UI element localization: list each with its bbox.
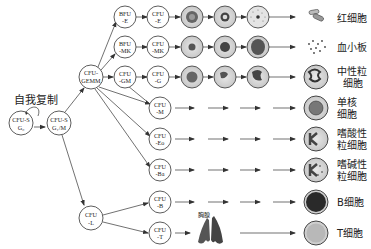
bfu-mk-node: BFU -MK <box>114 36 136 58</box>
label-monocyte-2: 细胞 <box>337 108 357 120</box>
hematopoiesis-diagram: 自我复制 CFU-S G₀ CFU-S G₁/M CFU- GEMM CFU -… <box>0 0 371 249</box>
cfu-eo-node: CFU -Eo <box>149 128 171 150</box>
svg-text:CFU: CFU <box>152 70 165 77</box>
cfu-gm-node: CFU -GM <box>114 66 136 88</box>
svg-text:-GM: -GM <box>119 77 132 84</box>
eosinophil-icon <box>304 127 328 151</box>
cfu-e-node: CFU -E <box>147 6 169 28</box>
neutrophil-icon <box>304 65 328 89</box>
label-basophil-2: 粒细胞 <box>337 170 367 182</box>
label-basophil-1: 嗜碱性 <box>337 158 367 170</box>
label-t-cell: T细胞 <box>336 227 363 239</box>
self-renewal-label: 自我复制 <box>14 93 58 107</box>
svg-text:-MK: -MK <box>152 47 165 54</box>
svg-text:-MK: -MK <box>119 47 132 54</box>
cfu-t-node: CFU -T <box>149 222 171 244</box>
cfu-m-node: CFU -M <box>149 97 171 119</box>
svg-text:CFU: CFU <box>154 226 167 233</box>
label-b-cell: B细胞 <box>337 196 364 208</box>
cfu-b-node: CFU -B <box>149 191 171 213</box>
svg-text:-G: -G <box>155 77 162 84</box>
svg-text:CFU: CFU <box>119 70 132 77</box>
cfu-ba-node: CFU -Ba <box>149 159 171 181</box>
svg-text:CFU-: CFU- <box>84 69 98 76</box>
svg-text:CFU-S: CFU-S <box>12 116 30 123</box>
thymus-icon <box>198 216 223 244</box>
svg-text:-Eo: -Eo <box>156 139 165 146</box>
basophil-icon <box>304 158 328 182</box>
label-neutrophil-1: 中性粒 <box>337 65 367 77</box>
svg-text:-E: -E <box>155 17 161 24</box>
thymus-label: 胸腺 <box>198 211 210 219</box>
label-eosinophil-2: 粒细胞 <box>337 139 367 151</box>
svg-text:CFU: CFU <box>154 101 167 108</box>
svg-text:-L: -L <box>88 219 94 226</box>
cfu-gemm-node: CFU- GEMM <box>79 65 103 89</box>
label-erythrocyte: 红细胞 <box>337 12 367 24</box>
svg-text:CFU: CFU <box>85 211 98 218</box>
stem-cell-g1m-node: CFU-S G₁/M <box>47 111 71 135</box>
svg-text:GEMM: GEMM <box>81 77 101 84</box>
svg-text:G₁/M: G₁/M <box>52 124 66 131</box>
svg-text:-M: -M <box>156 108 164 115</box>
label-monocyte-1: 单核 <box>337 96 357 108</box>
stem-cell-g0-node: CFU-S G₀ <box>9 111 33 135</box>
svg-text:CFU: CFU <box>154 132 167 139</box>
cfu-l-node: CFU -L <box>79 206 103 230</box>
b-cell-icon <box>304 190 328 214</box>
cfu-g-node: CFU -G <box>147 66 169 88</box>
cfu-mk-node: CFU -MK <box>147 36 169 58</box>
svg-text:BFU: BFU <box>119 40 132 47</box>
svg-text:CFU: CFU <box>152 40 165 47</box>
svg-text:CFU: CFU <box>152 10 165 17</box>
svg-text:-Ba: -Ba <box>156 170 165 177</box>
label-eosinophil-1: 嗜酸性 <box>337 127 367 139</box>
svg-text:CFU: CFU <box>154 163 167 170</box>
svg-text:G₀: G₀ <box>18 124 25 131</box>
svg-text:CFU-S: CFU-S <box>50 116 68 123</box>
label-neutrophil-2: 细胞 <box>343 77 363 89</box>
bfu-e-node: BFU -E <box>114 6 136 28</box>
svg-text:-E: -E <box>122 17 128 24</box>
svg-text:BFU: BFU <box>119 10 132 17</box>
svg-text:-B: -B <box>157 202 163 209</box>
label-platelet: 血小板 <box>337 41 367 53</box>
svg-text:CFU: CFU <box>154 195 167 202</box>
red-blood-cell-icon <box>309 9 325 22</box>
t-cell-icon <box>304 221 328 245</box>
monocyte-icon <box>304 96 328 120</box>
svg-text:-T: -T <box>157 233 163 240</box>
platelet-icon <box>308 40 326 54</box>
